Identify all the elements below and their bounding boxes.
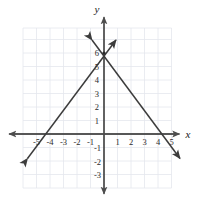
coordinate-plane-figure: x y -5 -4 -3 -2 -1 1 2 3 4 5 6 5 4 3 2 1… <box>0 0 199 201</box>
line-negative-slope <box>92 40 180 159</box>
x-tick-label: 3 <box>142 137 146 147</box>
x-tick-label: -4 <box>46 137 54 147</box>
y-tick-label: 1 <box>95 116 99 126</box>
y-tick-label: 6 <box>95 48 99 58</box>
y-tick-label: 3 <box>95 89 99 99</box>
y-tick-label: -2 <box>94 157 101 167</box>
x-tick-label: 4 <box>156 137 161 147</box>
x-tick-label: -3 <box>60 137 67 147</box>
y-tick-label: 5 <box>95 62 99 72</box>
y-tick-label: 2 <box>95 102 99 112</box>
line-positive-slope <box>28 40 117 159</box>
x-tick-label: 2 <box>129 137 133 147</box>
y-tick-labels: 6 5 4 3 2 1 -1 -2 -3 <box>94 48 101 180</box>
x-tick-label: -5 <box>33 137 40 147</box>
y-axis-label: y <box>94 3 100 15</box>
x-tick-label: 5 <box>169 137 173 147</box>
y-tick-label: -3 <box>94 170 101 180</box>
x-tick-label: -2 <box>73 137 80 147</box>
x-tick-label: 1 <box>115 137 119 147</box>
graph-svg: x y -5 -4 -3 -2 -1 1 2 3 4 5 6 5 4 3 2 1… <box>0 0 199 201</box>
x-axis-label: x <box>185 128 191 140</box>
x-tick-labels: -5 -4 -3 -2 -1 1 2 3 4 5 <box>33 137 174 147</box>
y-tick-label: -1 <box>94 143 101 153</box>
intersection-point <box>102 51 105 54</box>
